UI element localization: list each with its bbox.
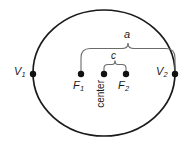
label-vertex-1-subscript: 1 bbox=[21, 70, 25, 79]
label-center-text: center bbox=[96, 80, 106, 108]
label-focus-2-letter: F bbox=[118, 79, 125, 91]
brace-c-right-arm bbox=[115, 61, 126, 73]
label-focus-2-subscript: 2 bbox=[125, 84, 129, 93]
label-vertex-1: V1 bbox=[14, 66, 26, 78]
point-v2 bbox=[172, 71, 178, 77]
label-focus-2: F2 bbox=[118, 80, 129, 92]
label-focus-1: F1 bbox=[73, 80, 84, 92]
label-vertex-2: V2 bbox=[156, 66, 168, 78]
point-v1 bbox=[30, 71, 36, 77]
label-focus-1-letter: F bbox=[73, 79, 80, 91]
label-semi-major-axis-a: a bbox=[124, 29, 130, 40]
label-focal-distance-c: c bbox=[111, 51, 116, 61]
brace-c bbox=[104, 61, 126, 73]
ellipse-diagram: V1 V2 F1 F2 a c center bbox=[0, 0, 193, 146]
point-f1 bbox=[78, 71, 84, 77]
label-focus-1-subscript: 1 bbox=[80, 84, 84, 93]
label-vertex-2-subscript: 2 bbox=[163, 70, 167, 79]
brace-a-right-arm bbox=[128, 44, 175, 74]
label-center: center bbox=[96, 52, 106, 80]
point-f2 bbox=[123, 71, 129, 77]
